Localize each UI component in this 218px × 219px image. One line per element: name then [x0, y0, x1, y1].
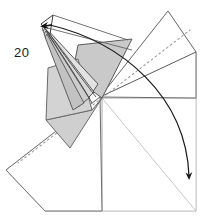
beak-guide-line-upper	[53, 15, 128, 40]
step-number-label: 20	[14, 45, 29, 60]
lower-right-panel-group	[102, 98, 196, 211]
origami-diagram-root: 20	[0, 0, 218, 219]
origami-diagram-canvas: 20	[0, 0, 218, 219]
